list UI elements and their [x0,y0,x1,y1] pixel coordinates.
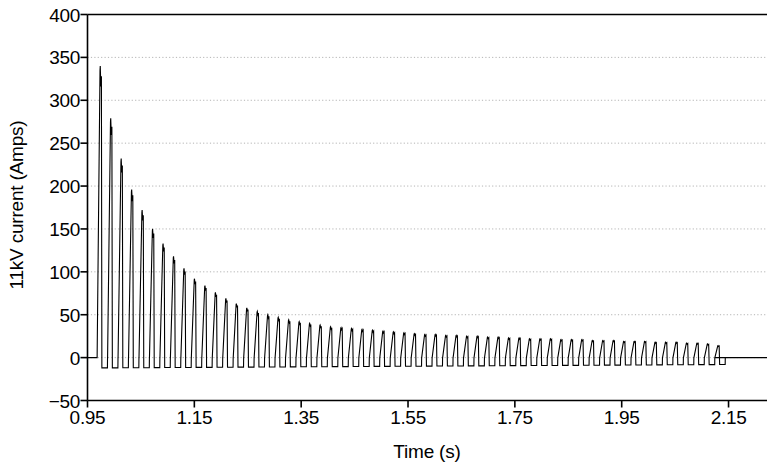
x-tick-label: 2.15 [711,408,747,427]
x-tick-label: 1.95 [604,408,640,427]
x-tick-label: 1.75 [497,408,533,427]
current-waveform-trace [88,66,767,368]
x-tick-label: 0.95 [70,408,106,427]
x-tick-label: 1.35 [283,408,319,427]
chart-figure: 11kV current (Amps) −5005010015020025030… [0,0,767,470]
x-tick-label: 1.55 [390,408,426,427]
plot-area [0,0,767,470]
gridlines [88,57,767,357]
x-tick-label: 1.15 [176,408,212,427]
x-axis-title: Time (s) [87,441,767,463]
x-axis-tick-labels: 0.951.151.351.551.751.952.15 [0,408,767,434]
axis-tick-marks [81,15,729,408]
